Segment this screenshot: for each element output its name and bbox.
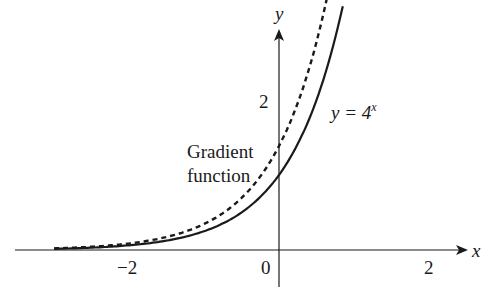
gradient-function-curve (54, 0, 328, 248)
exponential-curve (54, 6, 343, 249)
y-tick-label-2: 2 (259, 91, 269, 112)
gradient-label-line2: function (187, 165, 251, 186)
tick-label-0: 0 (261, 257, 271, 278)
curve-label: y = 4x (329, 100, 377, 123)
y-axis-label: y (273, 3, 284, 24)
tick-label-2: 2 (424, 257, 434, 278)
tick-label-neg2: −2 (117, 257, 137, 278)
gradient-label-line1: Gradient (187, 141, 254, 162)
x-axis-label: x (471, 240, 481, 261)
chart: y x −2 0 2 2 y = 4x Gradient function (0, 0, 497, 300)
